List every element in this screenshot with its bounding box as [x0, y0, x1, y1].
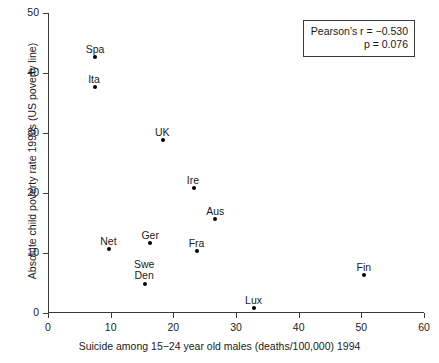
x-tick-mark	[236, 313, 237, 318]
data-point-label: Spa	[65, 44, 125, 55]
x-tick-label: 0	[28, 321, 68, 333]
y-tick-mark	[43, 193, 48, 194]
pearson-r-text: Pearson's r = −0.530	[310, 25, 408, 38]
scatter-chart-figure: 0102030405060 01020304050 SpaItaUKIreAus…	[0, 0, 439, 363]
data-point-label: Aus	[185, 206, 245, 217]
data-point-label: Den	[114, 270, 174, 281]
y-axis-title: Absolute child poverty rate 1990s (US po…	[26, 11, 38, 311]
data-point-label: Fin	[334, 262, 394, 273]
x-tick-label: 10	[91, 321, 131, 333]
data-point-label: Ire	[163, 175, 223, 186]
data-point	[195, 249, 199, 253]
data-point	[148, 241, 152, 245]
data-point	[93, 85, 97, 89]
data-point-label: Fra	[167, 238, 227, 249]
data-point	[93, 55, 97, 59]
x-tick-mark	[424, 313, 425, 318]
x-tick-label: 60	[404, 321, 439, 333]
data-point-label: Ita	[64, 74, 124, 85]
x-tick-mark	[173, 313, 174, 318]
x-tick-label: 20	[153, 321, 193, 333]
data-point-label: Lux	[224, 295, 284, 306]
x-tick-mark	[111, 313, 112, 318]
y-tick-mark	[43, 313, 48, 314]
x-tick-mark	[48, 313, 49, 318]
data-point	[362, 273, 366, 277]
x-tick-mark	[299, 313, 300, 318]
x-tick-label: 50	[341, 321, 381, 333]
x-tick-label: 40	[279, 321, 319, 333]
statistics-annotation-box: Pearson's r = −0.530 p = 0.076	[303, 20, 415, 57]
data-point-label: UK	[132, 127, 192, 138]
y-tick-mark	[43, 133, 48, 134]
y-tick-mark	[43, 253, 48, 254]
p-value-text: p = 0.076	[310, 38, 408, 51]
x-tick-label: 30	[216, 321, 256, 333]
data-point	[252, 306, 256, 310]
x-tick-mark	[361, 313, 362, 318]
y-tick-mark	[43, 73, 48, 74]
y-tick-mark	[43, 13, 48, 14]
x-axis-title: Suicide among 15−24 year old males (deat…	[0, 340, 439, 352]
data-point-label: Swe	[114, 259, 174, 270]
data-point	[143, 282, 147, 286]
